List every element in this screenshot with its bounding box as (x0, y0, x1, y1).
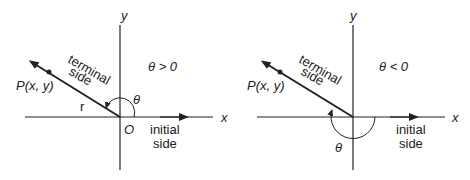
positive-angle-diagram: y x θ > 0 P(x, y) r O θ terminal side in… (16, 8, 228, 170)
angle-label: θ (335, 140, 342, 155)
angle-label: θ (133, 92, 140, 107)
y-axis-label: y (349, 8, 358, 23)
x-axis-label: x (451, 110, 459, 125)
x-axis-label: x (220, 110, 228, 125)
point-label: P(x, y) (16, 78, 54, 93)
point-label: P(x, y) (247, 78, 285, 93)
initial-label-1: initial (396, 122, 426, 137)
radius-label: r (80, 99, 85, 114)
y-axis-label: y (120, 8, 129, 23)
negative-angle-diagram: y x θ < 0 P(x, y) θ terminal side initia… (247, 8, 459, 170)
initial-label-2: side (399, 136, 423, 151)
diagram-canvas: y x θ > 0 P(x, y) r O θ terminal side in… (0, 0, 470, 180)
initial-label-1: initial (150, 122, 180, 137)
condition-label: θ < 0 (379, 59, 409, 74)
origin-label: O (124, 122, 134, 137)
condition-label: θ > 0 (148, 59, 178, 74)
point-p-icon (47, 70, 52, 75)
point-p-icon (278, 70, 283, 75)
initial-label-2: side (153, 136, 177, 151)
